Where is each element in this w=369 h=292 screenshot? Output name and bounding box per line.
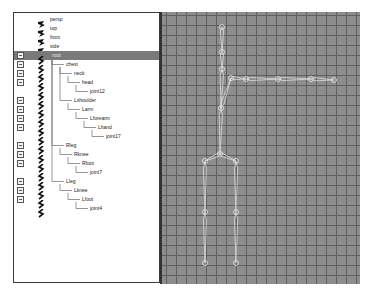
outliner-item-joint7[interactable]: joint7 xyxy=(14,168,159,177)
joint-icon xyxy=(37,114,46,123)
outliner-item-rfoot[interactable]: Rfoot xyxy=(14,159,159,168)
outliner-item-label: neck xyxy=(74,69,85,78)
outliner-item-rknee[interactable]: Rknee xyxy=(14,150,159,159)
bone-joint12-head[interactable] xyxy=(220,27,223,52)
joint-icon xyxy=(37,105,46,114)
camera-icon xyxy=(37,42,46,51)
bone-lknee-joint4[interactable] xyxy=(234,212,237,263)
joint-icon xyxy=(37,60,46,69)
bone-rleg-rknee[interactable] xyxy=(203,161,206,212)
outliner-item-joint12[interactable]: joint12 xyxy=(14,87,159,96)
joint-icon xyxy=(37,168,46,177)
collapse-toggle-icon[interactable] xyxy=(17,115,24,122)
outliner-item-persp[interactable]: persp xyxy=(14,15,159,24)
outliner-item-label: root xyxy=(52,51,61,60)
joint-icon xyxy=(37,78,46,87)
collapse-toggle-icon[interactable] xyxy=(17,178,24,185)
camera-icon xyxy=(37,15,46,24)
joint-icon xyxy=(37,141,46,150)
outliner-item-label: head xyxy=(82,78,93,87)
camera-icon xyxy=(37,24,46,33)
collapse-toggle-icon[interactable] xyxy=(17,70,24,77)
collapse-toggle-icon[interactable] xyxy=(17,61,24,68)
outliner-item-label: Rfoot xyxy=(82,159,94,168)
outliner-item-larm[interactable]: Larm xyxy=(14,105,159,114)
outliner-item-label: Rknee xyxy=(74,150,88,159)
outliner-item-label: joint4 xyxy=(90,204,102,213)
collapse-toggle-icon[interactable] xyxy=(17,97,24,104)
outliner-item-label: Rleg xyxy=(66,141,76,150)
outliner-item-side[interactable]: side xyxy=(14,42,159,51)
outliner-item-lforearm[interactable]: Lforearm xyxy=(14,114,159,123)
outliner-item-label: Lfoot xyxy=(82,195,93,204)
outliner-item-lhand[interactable]: Lhand xyxy=(14,123,159,132)
outliner-item-label: Lknee xyxy=(74,186,88,195)
outliner-item-label: side xyxy=(50,42,59,51)
bone-chest-root[interactable] xyxy=(219,108,222,154)
bone-lhand-joint17[interactable] xyxy=(311,78,334,81)
outliner-item-label: top xyxy=(50,24,57,33)
outliner-item-lfoot[interactable]: Lfoot xyxy=(14,195,159,204)
bone-neck-chest[interactable] xyxy=(220,69,223,108)
outliner-item-label: Lleg xyxy=(66,177,75,186)
collapse-toggle-icon[interactable] xyxy=(17,196,24,203)
collapse-toggle-icon[interactable] xyxy=(17,187,24,194)
outliner-item-label: joint7 xyxy=(90,168,102,177)
joint-icon xyxy=(37,51,46,60)
collapse-toggle-icon[interactable] xyxy=(17,142,24,149)
viewport-3d[interactable] xyxy=(162,12,360,284)
outliner-item-label: Larm xyxy=(82,105,93,114)
bone-larm-lforearm[interactable] xyxy=(246,77,278,80)
bone-lforearm-lhand[interactable] xyxy=(278,77,311,80)
outliner-item-label: front xyxy=(50,33,60,42)
collapse-toggle-icon[interactable] xyxy=(17,79,24,86)
outliner-item-front[interactable]: front xyxy=(14,33,159,42)
outliner-panel[interactable]: persptopfrontsiderootchestneckheadjoint1… xyxy=(13,12,160,283)
joint-icon xyxy=(37,132,46,141)
collapse-toggle-icon[interactable] xyxy=(17,106,24,113)
joint-icon xyxy=(37,204,46,213)
joint-icon xyxy=(37,177,46,186)
outliner-item-label: joint17 xyxy=(106,132,121,141)
outliner-item-label: joint12 xyxy=(90,87,105,96)
collapse-toggle-icon[interactable] xyxy=(17,151,24,158)
outliner-item-lshoulder[interactable]: Lshoulder xyxy=(14,96,159,105)
outliner-item-label: chest xyxy=(66,60,78,69)
joint-icon xyxy=(37,69,46,78)
collapse-toggle-icon[interactable] xyxy=(17,160,24,167)
outliner-item-label: Lshoulder xyxy=(74,96,96,105)
bone-lleg-lknee[interactable] xyxy=(234,161,237,212)
camera-icon xyxy=(37,33,46,42)
outliner-item-top[interactable]: top xyxy=(14,24,159,33)
skeleton-rig xyxy=(162,12,360,284)
outliner-item-rleg[interactable]: Rleg xyxy=(14,141,159,150)
joint-icon xyxy=(37,186,46,195)
outliner-item-head[interactable]: head xyxy=(14,78,159,87)
joint-icon xyxy=(37,150,46,159)
joint-icon xyxy=(37,96,46,105)
outliner-item-lleg[interactable]: Lleg xyxy=(14,177,159,186)
outliner-item-label: Lhand xyxy=(98,123,112,132)
bone-rknee-joint7[interactable] xyxy=(203,212,206,263)
collapse-toggle-icon[interactable] xyxy=(17,124,24,131)
outliner-item-label: persp xyxy=(50,15,63,24)
outliner-item-joint17[interactable]: joint17 xyxy=(14,132,159,141)
outliner-item-chest[interactable]: chest xyxy=(14,60,159,69)
outliner-item-root[interactable]: root xyxy=(14,51,159,60)
joint-icon xyxy=(37,87,46,96)
outliner-item-neck[interactable]: neck xyxy=(14,69,159,78)
outliner-item-label: Lforearm xyxy=(90,114,110,123)
joint-icon xyxy=(37,123,46,132)
joint-icon xyxy=(37,195,46,204)
outliner-item-joint4[interactable]: joint4 xyxy=(14,204,159,213)
bone-chest-lshoulder[interactable] xyxy=(221,78,231,108)
joint-icon xyxy=(37,159,46,168)
collapse-toggle-icon[interactable] xyxy=(17,52,24,59)
outliner-item-lknee[interactable]: Lknee xyxy=(14,186,159,195)
